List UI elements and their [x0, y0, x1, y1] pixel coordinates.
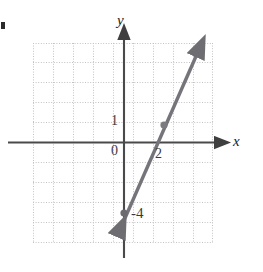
x-axis-label: x	[233, 134, 240, 149]
data-point-on-line	[160, 121, 167, 128]
y-axis-label: y	[117, 13, 124, 28]
coordinate-plane	[0, 0, 263, 272]
tick-label-origin: 0	[111, 144, 118, 158]
tick-label-y-intercept: -4	[131, 206, 144, 221]
tick-label-y-one: 1	[111, 114, 118, 128]
data-point-y-intercept	[120, 209, 127, 216]
plotted-line	[118, 54, 197, 234]
graph-figure: x y 1 0 2 -4	[0, 0, 263, 272]
tick-label-x-two: 2	[155, 147, 162, 161]
